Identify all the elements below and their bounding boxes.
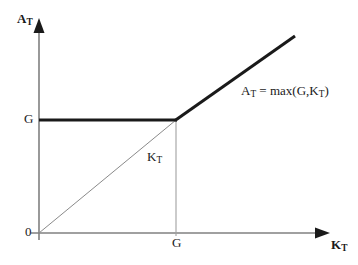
equation-tail: ) [324, 83, 328, 98]
figure-canvas: AT KT G G 0 KT AT = max(G,KT) [0, 0, 358, 265]
x-tick-label-g: G [172, 236, 181, 249]
equation-lhs-subscript: T [250, 89, 256, 99]
equation-rhs: = max(G,K [256, 83, 319, 98]
x-axis-label-text: K [331, 237, 341, 252]
x-axis-arrowhead [315, 228, 330, 239]
diagram-svg [0, 0, 358, 265]
y-tick-label-g: G [24, 112, 33, 125]
forty-five-degree-line-label-subscript: T [156, 155, 162, 165]
y-axis-arrowhead [34, 18, 45, 33]
x-axis-label: KT [331, 238, 347, 251]
rising-segment-line [175, 36, 295, 121]
origin-label: 0 [25, 225, 32, 238]
forty-five-degree-line-label: KT [147, 150, 162, 163]
x-axis-label-subscript: T [341, 243, 347, 253]
equation-annotation: AT = max(G,KT) [241, 84, 329, 97]
equation-lhs: A [241, 83, 250, 98]
forty-five-degree-line [39, 120, 176, 233]
y-axis-label-text: A [17, 11, 26, 26]
forty-five-degree-line-label-text: K [147, 149, 156, 164]
y-axis-label: AT [17, 12, 33, 25]
equation-rhs-subscript: T [319, 89, 325, 99]
y-axis-label-subscript: T [26, 17, 32, 27]
